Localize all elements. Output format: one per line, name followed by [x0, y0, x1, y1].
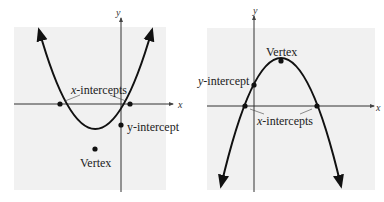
- y-axis-label: y: [252, 5, 258, 16]
- vertex-point: [92, 146, 97, 151]
- vertex-point: [278, 58, 283, 63]
- x-intercepts-label: x-intercepts: [70, 83, 127, 97]
- x-intercept-point: [314, 103, 319, 108]
- x-intercepts-label: x-intercepts: [256, 114, 313, 128]
- y-axis-label: y: [115, 7, 121, 18]
- y-intercept-label: y-intercept: [197, 74, 250, 88]
- left-graph: x y x-intercepts y-intercept Vertex: [14, 7, 183, 192]
- x-intercept-point: [57, 101, 62, 106]
- x-axis-label: x: [177, 99, 183, 110]
- y-intercept-point: [251, 82, 256, 87]
- x-intercept-point: [242, 103, 247, 108]
- x-intercept-point: [127, 101, 132, 106]
- parabola-diagrams: x y x-intercepts y-intercept Vertex x y …: [0, 0, 384, 202]
- right-graph: x y x-intercepts y-intercept Vertex: [197, 5, 381, 192]
- vertex-label: Vertex: [266, 45, 297, 59]
- x-axis-label: x: [375, 102, 381, 113]
- vertex-label: Vertex: [80, 156, 111, 170]
- y-intercept-label: y-intercept: [127, 120, 180, 134]
- y-intercept-point: [118, 122, 123, 127]
